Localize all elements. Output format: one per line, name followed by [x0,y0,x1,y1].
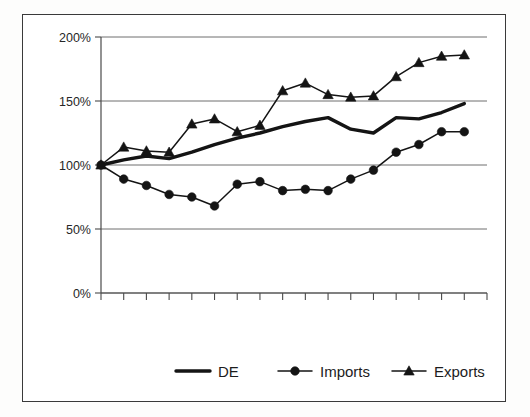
y-tick-label: 150% [59,95,91,109]
data-point-imports [369,166,378,175]
data-point-imports [256,177,265,186]
data-point-imports [460,127,469,136]
chart-legend: DEImportsExports [176,363,485,380]
data-point-imports [278,186,287,195]
y-tick-label: 0% [73,287,91,301]
data-point-exports [119,142,129,151]
data-point-imports [119,175,128,184]
data-point-exports [255,120,265,129]
gridlines [95,37,487,293]
legend-label-exports: Exports [434,363,485,380]
x-axis-tick-marks [101,293,487,300]
y-axis-tick-labels: 0%50%100%150%200% [59,31,91,301]
series-line-exports [101,55,464,165]
series-de [101,104,464,165]
legend-marker-imports [291,367,300,376]
data-point-exports [300,78,310,87]
legend-label-imports: Imports [320,363,370,380]
data-point-imports [324,186,333,195]
series-layer [96,50,470,211]
data-point-imports [437,127,446,136]
data-point-imports [142,181,151,190]
data-point-imports [415,140,424,149]
legend-item-de[interactable]: DE [176,363,239,380]
data-point-imports [392,148,401,157]
data-point-imports [210,202,219,211]
data-point-exports [323,89,333,98]
data-point-imports [346,175,355,184]
series-exports [96,50,470,169]
data-point-exports [209,114,219,123]
y-tick-label: 50% [66,223,91,237]
chart-figure: 0%50%100%150%200% DEImportsExports [0,0,530,417]
line-chart: 0%50%100%150%200% DEImportsExports [0,0,530,417]
y-tick-label: 100% [59,159,91,173]
legend-item-imports[interactable]: Imports [278,363,370,380]
data-point-imports [301,185,310,194]
data-point-imports [188,193,197,202]
data-point-exports [459,50,469,59]
series-line-de [101,104,464,165]
y-tick-label: 200% [59,31,91,45]
data-point-imports [233,180,242,189]
legend-label-de: DE [218,363,239,380]
series-imports [97,127,469,210]
data-point-imports [165,190,174,199]
data-point-exports [391,71,401,80]
legend-item-exports[interactable]: Exports [392,363,485,380]
